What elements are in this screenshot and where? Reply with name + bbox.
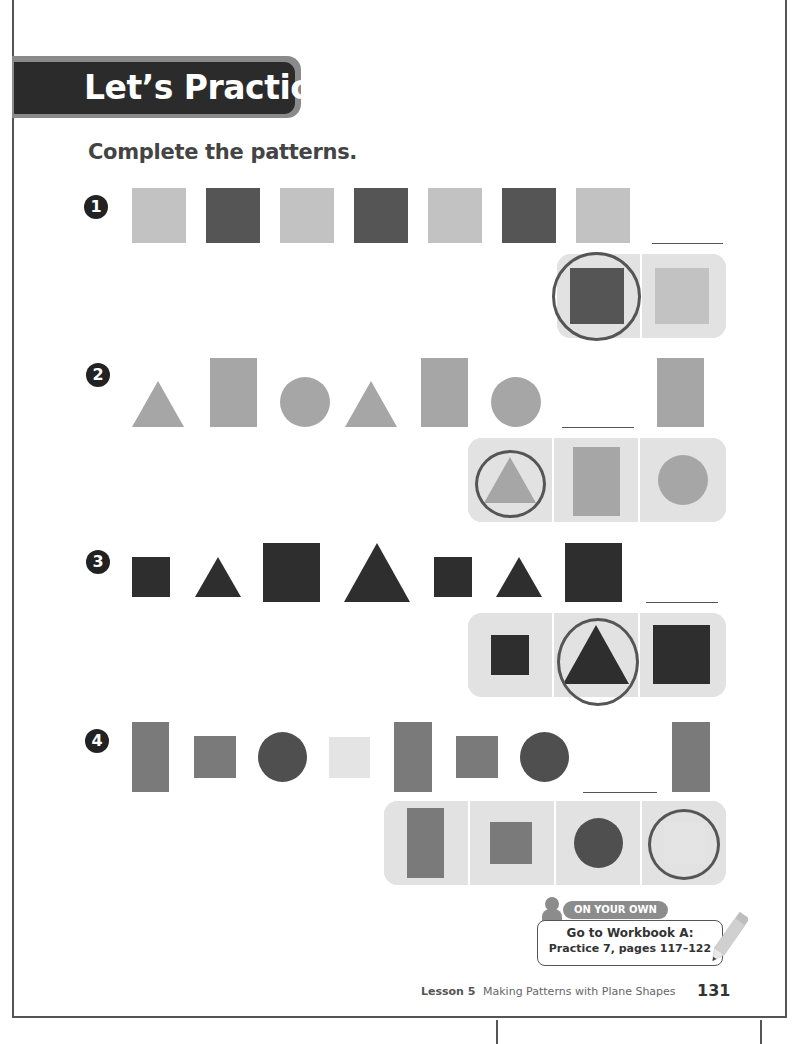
section-title: Let’s Practice [84, 63, 331, 113]
triangle-shape [132, 381, 184, 427]
rectangle-shape [210, 358, 257, 427]
tall-rectangle-shape [132, 722, 169, 792]
rectangle-shape [421, 358, 468, 427]
dark-square-shape [502, 188, 556, 243]
circle-option[interactable] [658, 455, 708, 505]
square-shape [456, 736, 498, 778]
square-option[interactable] [490, 822, 532, 864]
small-triangle-shape [496, 557, 542, 597]
problem-number-badge: 3 [86, 550, 110, 574]
pencil-icon [708, 908, 748, 970]
answer-blank[interactable] [646, 602, 718, 603]
selected-answer-circle [648, 809, 720, 880]
big-square-shape [263, 543, 320, 602]
problem-number-badge: 2 [86, 363, 110, 387]
light-square-shape [280, 188, 334, 243]
footer-lesson: Lesson 5 [421, 985, 475, 998]
workbook-reference-line1: Go to Workbook A: [538, 926, 722, 940]
answer-blank[interactable] [562, 427, 634, 428]
circle-shape [280, 377, 330, 427]
small-square-option[interactable] [491, 635, 529, 675]
light-square-shape [428, 188, 482, 243]
workbook-reference-box: Go to Workbook A: Practice 7, pages 117–… [537, 920, 723, 966]
light-square-option[interactable] [655, 268, 709, 324]
page-tab-divider-right [760, 1020, 762, 1044]
dark-circle-option[interactable] [574, 818, 623, 868]
selected-answer-circle [557, 618, 639, 706]
selected-answer-circle [552, 252, 641, 341]
big-square-option[interactable] [653, 625, 710, 684]
circle-shape [491, 377, 541, 427]
small-square-shape [434, 557, 472, 597]
dark-circle-shape [258, 732, 307, 782]
problem-number-badge: 4 [85, 729, 109, 753]
on-your-own-label: ON YOUR OWN [563, 901, 668, 919]
light-square-shape [132, 188, 186, 243]
square-shape [194, 736, 236, 778]
tall-rectangle-option[interactable] [407, 808, 444, 878]
small-triangle-shape [195, 557, 241, 597]
dark-square-shape [206, 188, 260, 243]
big-square-shape [565, 543, 622, 602]
instruction-text: Complete the patterns. [88, 140, 357, 164]
page-number: 131 [697, 981, 730, 1000]
footer-lesson-title: Making Patterns with Plane Shapes [483, 985, 676, 998]
answer-blank[interactable] [652, 243, 723, 244]
tall-rectangle-shape [672, 722, 710, 792]
triangle-shape [345, 381, 397, 427]
light-square-shape [329, 737, 370, 778]
dark-square-shape [354, 188, 408, 243]
dark-circle-shape [520, 732, 569, 782]
rectangle-shape [657, 358, 704, 427]
small-square-shape [132, 557, 170, 597]
selected-answer-circle [475, 450, 546, 518]
tall-rectangle-shape [394, 722, 432, 792]
light-square-shape [576, 188, 630, 243]
workbook-reference-line2: Practice 7, pages 117–122 [538, 942, 722, 955]
big-triangle-shape [344, 543, 410, 602]
rectangle-option[interactable] [573, 447, 620, 516]
page-tab-divider-left [496, 1020, 498, 1044]
answer-blank[interactable] [583, 792, 657, 793]
problem-number-badge: 1 [84, 195, 108, 219]
